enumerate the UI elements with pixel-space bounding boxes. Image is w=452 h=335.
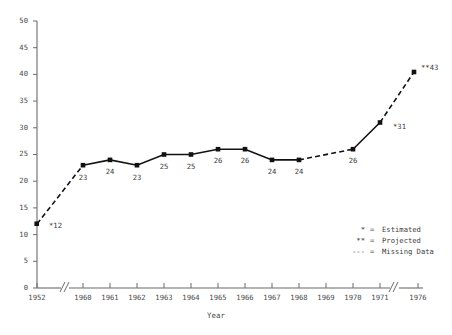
data-point-1970	[351, 147, 356, 152]
x-tick-label-1968: 1968	[290, 293, 307, 302]
y-tick-label-0: 0	[24, 283, 28, 292]
data-point-1962	[135, 163, 140, 168]
y-tick-label-10: 10	[19, 230, 28, 239]
x-tick-label-1976: 1976	[409, 293, 426, 302]
legend-symbol-estimated: *	[361, 225, 365, 234]
y-tick-label-20: 20	[19, 176, 28, 185]
legend-equals-estimated: =	[370, 225, 375, 234]
data-point-1971	[378, 120, 383, 125]
data-label-1964: 25	[187, 162, 196, 171]
y-tick-label-40: 40	[19, 69, 28, 78]
y-tick-label-30: 30	[19, 123, 28, 132]
data-point-1963	[162, 152, 167, 157]
chart-legend: * = Estimated ** = Projected --- = Missi…	[352, 225, 434, 256]
data-point-1968	[297, 158, 302, 163]
line-chart: 0 5 10 15 20 25 30 35 40 45 50 1952	[0, 0, 452, 335]
data-label-1952: *12	[49, 221, 62, 230]
y-tick-label-5: 5	[24, 256, 28, 265]
data-label-1961: 24	[106, 167, 115, 176]
legend-label-estimated: Estimated	[382, 225, 421, 234]
x-tick-label-1965: 1965	[209, 293, 226, 302]
legend-symbol-missing-data: ---	[352, 247, 365, 256]
x-axis-break-right-icon	[389, 282, 398, 292]
y-tick-label-45: 45	[19, 43, 28, 52]
x-tick-label-1969: 1969	[317, 293, 334, 302]
y-tick-label-35: 35	[19, 96, 28, 105]
y-tick-label-15: 15	[19, 203, 28, 212]
y-axis-ticks	[33, 21, 37, 288]
data-label-1968: 24	[295, 167, 304, 176]
data-point-1961	[108, 158, 113, 163]
series-markers	[34, 70, 416, 226]
data-point-1965	[216, 147, 221, 152]
chart-container: 0 5 10 15 20 25 30 35 40 45 50 1952	[0, 0, 452, 335]
data-label-1962: 23	[133, 173, 142, 182]
legend-equals-projected: =	[370, 236, 375, 245]
data-point-1976	[412, 70, 417, 75]
x-tick-label-1964: 1964	[182, 293, 199, 302]
x-tick-label-1971: 1971	[371, 293, 388, 302]
x-tick-label-1967: 1967	[263, 293, 280, 302]
series-segment-missing-data	[299, 149, 353, 160]
legend-equals-missing-data: =	[370, 247, 375, 256]
data-point-1960	[81, 163, 86, 168]
series-segment-to-estimated	[353, 123, 380, 150]
legend-symbol-projected: **	[356, 236, 365, 245]
legend-label-missing-data: Missing Data	[382, 247, 434, 256]
series-segment-estimated-start	[37, 165, 83, 224]
x-tick-label-1961: 1961	[101, 293, 118, 302]
x-tick-label-1963: 1963	[155, 293, 172, 302]
x-axis-title: Year	[207, 311, 225, 320]
data-label-1976: **43	[421, 63, 438, 72]
y-tick-label-50: 50	[19, 16, 28, 25]
data-label-1970: 26	[349, 156, 358, 165]
data-point-1964	[189, 152, 194, 157]
x-tick-label-1966: 1966	[236, 293, 253, 302]
data-point-1952	[34, 221, 39, 226]
data-label-1966: 26	[241, 156, 250, 165]
x-tick-label-1952: 1952	[28, 293, 45, 302]
x-tick-label-1970: 1970	[344, 293, 361, 302]
data-label-1967: 24	[268, 167, 277, 176]
x-tick-label-1962: 1962	[128, 293, 145, 302]
data-label-1965: 26	[214, 156, 223, 165]
x-axis-ticks	[37, 283, 418, 288]
x-tick-label-1960: 1960	[74, 293, 91, 302]
data-point-1966	[243, 147, 248, 152]
x-axis-break-left-icon	[60, 282, 69, 292]
data-label-1960: 23	[79, 173, 88, 182]
data-label-1963: 25	[160, 162, 169, 171]
data-label-1971: *31	[393, 122, 406, 131]
legend-label-projected: Projected	[382, 236, 421, 245]
series-segment-projected	[380, 72, 414, 123]
y-tick-label-25: 25	[19, 149, 28, 158]
data-point-1967	[270, 158, 275, 163]
